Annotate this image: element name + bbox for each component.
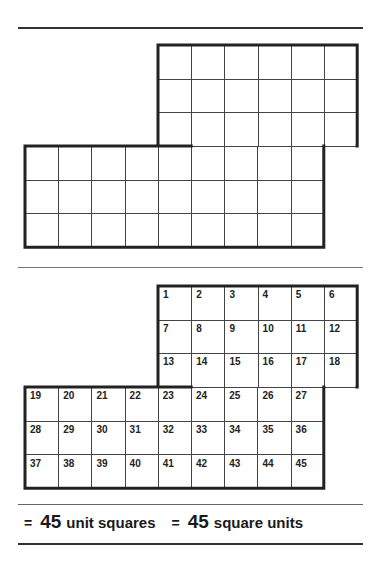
lower-divider: [18, 504, 363, 505]
unit-squares-count: 45: [40, 511, 61, 533]
unit-squares-label: unit squares: [66, 514, 155, 531]
area-equation: = 45 unit squares = 45 square units: [24, 511, 319, 533]
shape-outline: [0, 0, 383, 569]
square-units-count: 45: [188, 511, 209, 533]
equals-sign: =: [172, 515, 180, 531]
bottom-divider: [18, 543, 363, 545]
equals-sign: =: [24, 515, 32, 531]
square-units-label: square units: [214, 514, 303, 531]
